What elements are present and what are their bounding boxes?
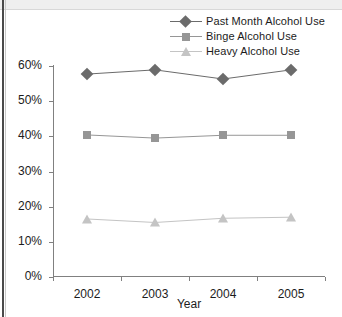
legend-label: Heavy Alcohol Use xyxy=(202,45,300,58)
legend-label: Past Month Alcohol Use xyxy=(202,15,325,28)
data-point xyxy=(150,218,160,227)
data-point xyxy=(287,131,295,139)
data-point xyxy=(219,131,227,139)
series-lines xyxy=(53,66,325,277)
x-tick xyxy=(325,277,326,281)
series-line-1 xyxy=(87,70,291,79)
x-tick xyxy=(53,277,54,281)
chart-figure: Past Month Alcohol UseBinge Alcohol UseH… xyxy=(0,0,342,317)
y-tick-label: 10% xyxy=(18,234,42,248)
y-tick-label: 50% xyxy=(18,93,42,107)
data-point xyxy=(287,65,296,74)
data-point xyxy=(219,75,228,84)
x-tick xyxy=(121,277,122,281)
series-line-2 xyxy=(87,135,291,138)
plot-area: 0%10%20%30%40%50%60% 2002200320042005 xyxy=(53,66,325,277)
data-point xyxy=(218,214,228,223)
y-tick-label: 20% xyxy=(18,199,42,213)
chart-legend: Past Month Alcohol UseBinge Alcohol UseH… xyxy=(170,14,342,59)
data-point xyxy=(286,213,296,222)
scan-left-edge-artifact-light xyxy=(5,0,6,317)
data-point xyxy=(82,214,92,223)
legend-item-2[interactable]: Binge Alcohol Use xyxy=(170,29,342,44)
series-line-3 xyxy=(87,217,291,222)
legend-key-square-icon xyxy=(170,30,202,43)
y-tick-label: 0% xyxy=(25,269,42,283)
scan-left-edge-artifact xyxy=(2,0,4,317)
y-tick-label: 60% xyxy=(18,58,42,72)
y-tick-label: 30% xyxy=(18,164,42,178)
legend-item-3[interactable]: Heavy Alcohol Use xyxy=(170,44,342,59)
legend-key-triangle-icon xyxy=(170,45,202,58)
legend-key-diamond-icon xyxy=(170,15,202,28)
x-tick xyxy=(257,277,258,281)
legend-label: Binge Alcohol Use xyxy=(202,30,297,43)
x-axis-title: Year xyxy=(53,297,325,311)
data-point xyxy=(83,131,91,139)
data-point xyxy=(83,70,92,79)
x-tick xyxy=(189,277,190,281)
data-point xyxy=(151,134,159,142)
y-tick-label: 40% xyxy=(18,128,42,142)
legend-item-1[interactable]: Past Month Alcohol Use xyxy=(170,14,342,29)
scan-top-band xyxy=(0,0,342,10)
data-point xyxy=(151,65,160,74)
